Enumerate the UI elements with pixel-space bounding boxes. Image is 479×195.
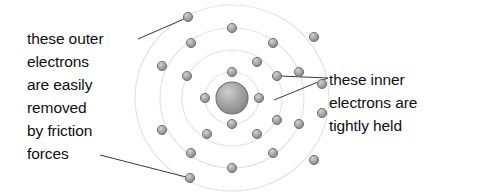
electron-s3-sse bbox=[268, 148, 277, 157]
electron-s3-n bbox=[227, 23, 236, 32]
electron-s1-s bbox=[227, 119, 236, 128]
electron-s3-ese bbox=[294, 119, 303, 128]
leader-lines bbox=[100, 19, 328, 177]
nucleus bbox=[216, 82, 248, 114]
electron-s2-ese bbox=[272, 115, 281, 124]
nucleus-sphere bbox=[216, 82, 248, 114]
electron-s1-n bbox=[227, 67, 236, 76]
outer-electrons-text-line-1: these outer bbox=[27, 27, 103, 50]
electron-s4-ese bbox=[317, 108, 326, 117]
electron-s4-nne bbox=[309, 32, 318, 41]
electron-s3-nne bbox=[268, 38, 277, 47]
electron-s4-nnw bbox=[183, 12, 192, 21]
electron-s3-wsw bbox=[186, 148, 195, 157]
leader-outer-bottom bbox=[100, 155, 186, 177]
inner-electrons-text-line-2: electrons are bbox=[329, 91, 417, 114]
inner-electrons-text-line-1: these inner bbox=[329, 68, 417, 91]
electron-s1-w bbox=[200, 93, 209, 102]
electron-s2-wnw bbox=[182, 71, 191, 80]
outer-electrons-label: these outerelectronsare easilyremovedby … bbox=[27, 27, 103, 165]
electron-s4-ene bbox=[317, 79, 326, 88]
electron-s3-wnw bbox=[186, 38, 195, 47]
electron-s2-ssw bbox=[202, 129, 211, 138]
outer-electrons-text-line-2: electrons bbox=[27, 50, 103, 73]
inner-electrons-label: these innerelectrons aretightly held bbox=[329, 68, 417, 137]
electron-s4-sse bbox=[309, 155, 318, 164]
outer-electrons-text-line-4: removed bbox=[27, 96, 103, 119]
electron-s4-wsw bbox=[157, 125, 166, 134]
electron-s3-ene bbox=[294, 67, 303, 76]
diagram-canvas: these outerelectronsare easilyremovedby … bbox=[0, 0, 479, 195]
leader-inner-upper bbox=[280, 76, 328, 78]
electron-s4-wnw bbox=[157, 61, 166, 70]
electron-s2-sse bbox=[252, 129, 261, 138]
electron-s3-s bbox=[227, 163, 236, 172]
electron-s1-e bbox=[254, 93, 263, 102]
leader-outer-top bbox=[138, 19, 184, 39]
outer-electrons-text-line-5: by friction bbox=[27, 119, 103, 142]
electron-s4-s bbox=[185, 173, 194, 182]
electron-s2-nne bbox=[252, 57, 261, 66]
electron-s2-ene bbox=[272, 71, 281, 80]
outer-electrons-text-line-3: are easily bbox=[27, 73, 103, 96]
outer-electrons-text-line-6: forces bbox=[27, 142, 103, 165]
inner-electrons-text-line-3: tightly held bbox=[329, 114, 417, 137]
